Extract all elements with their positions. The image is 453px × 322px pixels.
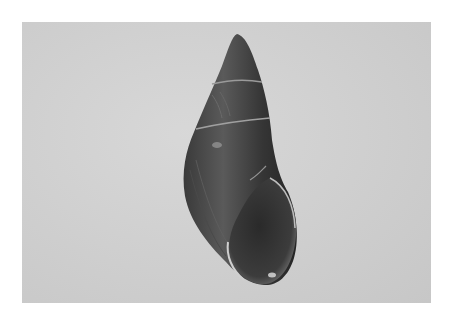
snail-shell-image xyxy=(0,0,453,322)
